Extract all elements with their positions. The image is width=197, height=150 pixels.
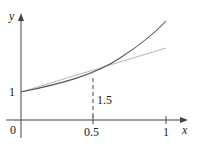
x-axis-label: x <box>182 124 187 136</box>
y-tick-1-label: 1 <box>9 86 15 98</box>
x-tick-half-label: 0.5 <box>84 126 99 138</box>
marker-value-label: 1.5 <box>97 94 112 106</box>
origin-label: 0 <box>10 124 16 136</box>
y-axis-label: y <box>9 10 14 22</box>
x-tick-1-label: 1 <box>163 126 169 138</box>
y-axis-arrow-icon <box>18 13 24 21</box>
